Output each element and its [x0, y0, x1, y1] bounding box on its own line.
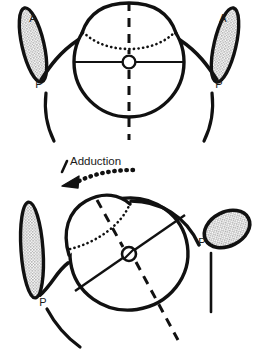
adduction-annotation: Adduction — [62, 155, 133, 188]
left-lower-arc-adducted — [47, 309, 80, 347]
rotation-center-top — [123, 56, 136, 69]
right-muscle-belly-adducted — [198, 203, 256, 255]
label-right-posterior-bottom: P — [198, 236, 205, 248]
adduction-tick-mark — [62, 161, 67, 172]
label-right-anterior-top: A — [219, 12, 227, 24]
label-adduction: Adduction — [70, 155, 121, 167]
figure-root: A P A P Adduction — [0, 0, 258, 359]
left-lower-arc — [45, 93, 54, 141]
adducted-position-panel: Adduction — [18, 155, 256, 347]
right-lower-arc — [204, 93, 213, 141]
right-muscle-ellipse-adducted — [198, 203, 256, 255]
label-left-anterior-top: A — [29, 12, 37, 24]
adduction-arrow-trail — [79, 170, 133, 181]
label-right-posterior-top: P — [215, 78, 222, 90]
primary-position-panel: A P A P — [14, 2, 245, 141]
adduction-arrow-head — [62, 176, 79, 188]
label-left-posterior-bottom: P — [39, 296, 46, 308]
label-left-posterior-top: P — [35, 78, 42, 90]
left-muscle-ellipse-adducted — [18, 201, 47, 298]
ocular-rotation-diagram: A P A P Adduction — [0, 0, 258, 359]
left-muscle-belly-adducted — [18, 201, 47, 298]
